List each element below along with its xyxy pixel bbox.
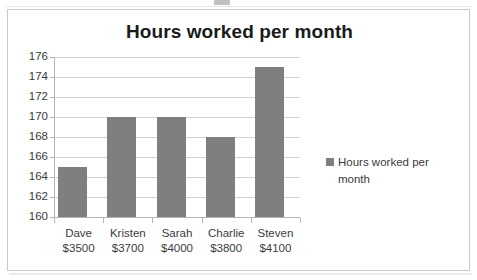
cut-off-horizontal-rule (6, 6, 471, 7)
y-axis-tick (50, 197, 55, 198)
x-axis-category-label: Steven$4100 (245, 226, 305, 256)
bar[interactable] (107, 117, 136, 217)
x-axis-category-name: Steven (245, 226, 305, 241)
y-axis-tick (50, 57, 55, 58)
chart-title: Hours worked per month (8, 21, 471, 43)
x-axis-tick (202, 218, 203, 223)
x-axis-tick (300, 218, 301, 223)
x-axis-tick (54, 218, 55, 223)
y-axis-tick (50, 97, 55, 98)
y-axis-tick-label: 168 (14, 131, 48, 142)
y-axis-tick-label: 164 (14, 171, 48, 182)
y-axis-tick-label: 160 (14, 211, 48, 222)
y-axis-tick (50, 137, 55, 138)
x-axis-category-amount: $4100 (245, 241, 305, 256)
y-axis-tick-label: 162 (14, 191, 48, 202)
gridline (54, 57, 300, 58)
legend-color-swatch-icon (326, 158, 334, 166)
y-axis-tick-label: 172 (14, 91, 48, 102)
y-axis-tick-label: 174 (14, 71, 48, 82)
bar[interactable] (157, 117, 186, 217)
bar[interactable] (206, 137, 235, 217)
y-axis-tick (50, 77, 55, 78)
chart-container[interactable]: Hours worked per month 17617417217016816… (7, 9, 470, 271)
gridline (54, 217, 300, 218)
legend-entry-label: Hours worked per month (338, 154, 450, 188)
bar[interactable] (255, 67, 284, 217)
plot-area[interactable] (54, 57, 300, 217)
y-axis-tick-label: 170 (14, 111, 48, 122)
y-axis-tick (50, 117, 55, 118)
chart-frame-shadow (9, 273, 472, 275)
chart-legend[interactable]: Hours worked per month (326, 154, 461, 188)
y-axis-tick-label: 176 (14, 51, 48, 62)
x-axis-tick (152, 218, 153, 223)
cut-off-text-remnant (214, 0, 230, 5)
cut-off-content-strip (0, 0, 477, 8)
x-axis-tick (251, 218, 252, 223)
bar[interactable] (58, 167, 87, 217)
x-axis-tick (103, 218, 104, 223)
y-axis-tick (50, 157, 55, 158)
y-axis-labels: 176174172170168166164162160 (10, 10, 48, 272)
y-axis-tick-label: 166 (14, 151, 48, 162)
y-axis-tick (50, 177, 55, 178)
